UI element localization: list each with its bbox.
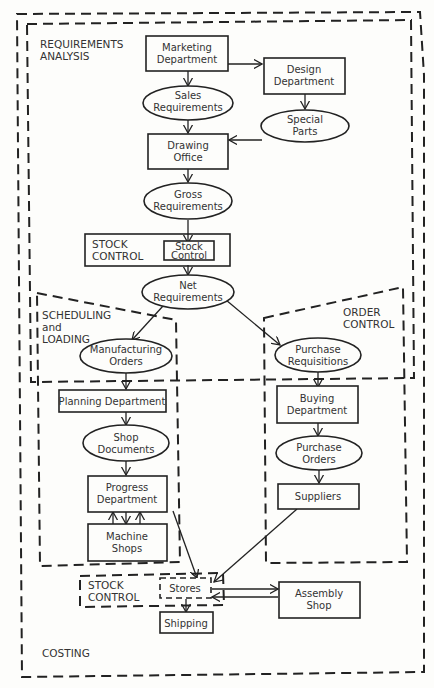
label-preq-2: Requisitions [288,356,348,367]
label-mfg-2: Orders [109,356,143,367]
region-label-analysis: ANALYSIS [40,50,90,62]
label-porders-1: Purchase [296,442,341,453]
label-special-2: Parts [293,126,318,137]
label-machine-1: Machine [106,531,148,542]
label-net-1: Net [179,280,197,291]
label-preq-1: Purchase [295,344,340,355]
label-net-2: Requirements [153,292,223,303]
label-shipping: Shipping [164,618,208,629]
label-assembly-1: Assembly [295,588,343,599]
node-shop-documents [83,425,169,461]
label-assembly-2: Shop [306,600,331,611]
label-design-2: Department [274,76,335,87]
label-sales-2: Requirements [153,102,223,113]
label-special-1: Special [287,114,323,125]
label-marketing-2: Department [157,54,218,65]
label-buying-1: Buying [300,393,335,404]
region-label-control: CONTROL [343,318,394,330]
production-control-diagram: REQUIREMENTS ANALYSIS SCHEDULING and LOA… [0,0,434,688]
label-stores: Stores [169,583,201,594]
label-marketing-1: Marketing [162,42,212,53]
label-progress-1: Progress [106,482,149,493]
label-drawing-2: Office [173,152,202,163]
label-shop-1: Shop [113,432,138,443]
region-label-and: and [42,321,62,333]
region-label-costing: COSTING [42,647,90,659]
label-drawing-1: Drawing [167,140,209,151]
label-gross-2: Requirements [153,201,223,212]
label-shop-2: Documents [97,444,154,455]
label-porders-2: Orders [302,454,336,465]
label-planning: Planning Department [59,396,166,407]
label-progress-2: Department [97,494,158,505]
label-stock-2: Control [171,250,207,261]
region-label-requirements: REQUIREMENTS [40,38,124,50]
region-label-stock-bottom: STOCK [88,579,125,591]
label-sales-1: Sales [175,90,202,101]
label-buying-2: Department [287,405,348,416]
label-suppliers: Suppliers [295,491,341,502]
label-gross-1: Gross [174,189,202,200]
label-machine-2: Shops [112,543,142,554]
label-design-1: Design [287,64,322,75]
region-label-control-top: CONTROL [92,250,143,262]
region-label-scheduling: SCHEDULING [42,309,111,321]
region-label-order: ORDER [343,306,381,318]
region-label-stock-top: STOCK [92,238,129,250]
region-label-control-bottom: CONTROL [88,591,139,603]
region-label-loading: LOADING [42,333,90,345]
label-mfg-1: Manufacturing [90,344,162,355]
